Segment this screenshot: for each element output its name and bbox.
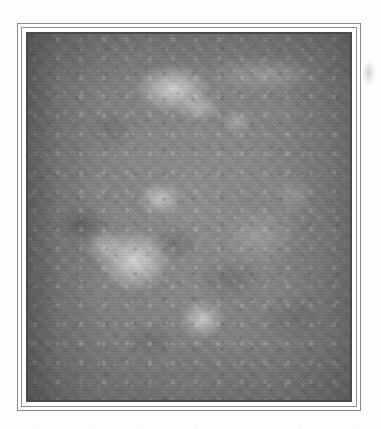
photo-vignette-layer <box>28 34 350 400</box>
photo-bezel <box>26 32 352 402</box>
photo-lesion-blotch-layer <box>28 34 350 400</box>
photo-frame-inner-rule <box>21 27 357 407</box>
photo-frame-outer-rule <box>17 23 361 411</box>
page-root <box>0 0 381 429</box>
clinical-photograph <box>28 34 350 400</box>
photo-papule-mottle-layer <box>28 34 350 400</box>
photo-halftone-texture-layer <box>28 34 350 400</box>
photo-scanline-layer <box>28 34 350 400</box>
right-margin-smudge-artifact <box>362 62 375 86</box>
photo-base-tone-layer <box>28 34 350 400</box>
